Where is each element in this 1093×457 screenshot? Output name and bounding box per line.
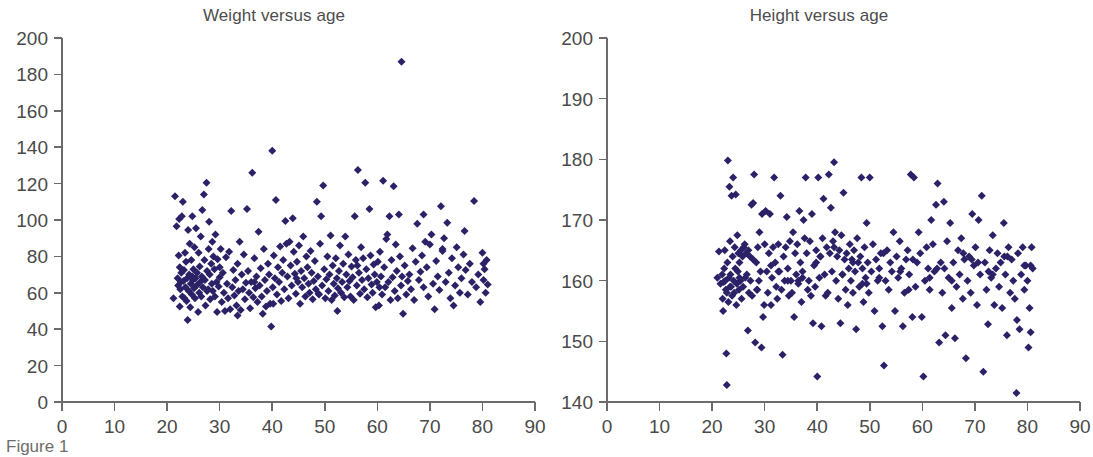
scatter-point bbox=[268, 147, 276, 155]
scatter-point bbox=[1011, 295, 1019, 303]
scatter-point bbox=[205, 245, 213, 253]
scatter-point bbox=[359, 254, 367, 262]
y-axis-tick-label: 180 bbox=[16, 64, 48, 85]
y-axis-tick-label: 80 bbox=[27, 246, 48, 267]
scatter-point bbox=[184, 226, 192, 234]
x-axis-tick-label: 10 bbox=[649, 416, 670, 437]
scatter-point bbox=[437, 202, 445, 210]
scatter-point bbox=[296, 300, 304, 308]
scatter-point bbox=[388, 256, 396, 264]
scatter-point bbox=[238, 271, 246, 279]
scatter-point bbox=[482, 289, 490, 297]
scatter-point bbox=[915, 228, 923, 236]
scatter-point bbox=[774, 268, 782, 276]
scatter-point bbox=[1019, 243, 1027, 251]
scatter-point bbox=[1020, 286, 1028, 294]
scatter-point bbox=[857, 174, 865, 182]
scatter-point bbox=[319, 181, 327, 189]
scatter-point bbox=[184, 316, 192, 324]
scatter-point bbox=[861, 243, 869, 251]
y-axis-tick-label: 100 bbox=[16, 210, 48, 231]
scatter-point bbox=[353, 282, 361, 290]
scatter-point bbox=[250, 254, 258, 262]
scatter-point bbox=[307, 247, 315, 255]
scatter-point bbox=[1017, 271, 1025, 279]
x-axis-tick-label: 70 bbox=[964, 416, 985, 437]
scatter-point bbox=[941, 331, 949, 339]
scatter-point bbox=[828, 268, 836, 276]
scatter-point bbox=[420, 211, 428, 219]
scatter-point bbox=[255, 228, 263, 236]
scatter-point bbox=[738, 295, 746, 303]
scatter-point bbox=[838, 271, 846, 279]
scatter-point bbox=[1028, 243, 1036, 251]
scatter-point bbox=[264, 260, 272, 268]
scatter-point bbox=[967, 289, 975, 297]
scatter-point bbox=[758, 343, 766, 351]
scatter-point bbox=[280, 285, 288, 293]
scatter-point bbox=[274, 263, 282, 271]
scatter-point bbox=[399, 310, 407, 318]
scatter-point bbox=[1027, 328, 1035, 336]
scatter-point bbox=[755, 277, 763, 285]
scatter-point bbox=[379, 177, 387, 185]
x-axis-tick-label: 0 bbox=[602, 416, 613, 437]
scatter-point bbox=[236, 238, 244, 246]
scatter-point bbox=[796, 258, 804, 266]
scatter-point bbox=[195, 249, 203, 257]
scatter-point bbox=[1026, 304, 1034, 312]
scatter-point bbox=[371, 271, 379, 279]
scatter-point bbox=[853, 234, 861, 242]
scatter-point bbox=[814, 174, 822, 182]
scatter-point bbox=[817, 322, 825, 330]
x-axis-tick-label: 0 bbox=[57, 416, 68, 437]
scatter-point bbox=[723, 381, 731, 389]
scatter-point bbox=[176, 302, 184, 310]
x-axis-tick-label: 30 bbox=[209, 416, 230, 437]
scatter-point bbox=[904, 246, 912, 254]
scatter-point bbox=[404, 277, 412, 285]
scatter-point bbox=[765, 249, 773, 257]
figure-caption: Figure 1 bbox=[6, 437, 68, 457]
scatter-point bbox=[982, 286, 990, 294]
y-axis-tick-label: 140 bbox=[561, 392, 593, 413]
scatter-point bbox=[298, 283, 306, 291]
scatter-point bbox=[905, 271, 913, 279]
y-axis-tick-label: 60 bbox=[27, 283, 48, 304]
scatter-point bbox=[811, 283, 819, 291]
scatter-point bbox=[474, 271, 482, 279]
scatter-point bbox=[1012, 389, 1020, 397]
scatter-point bbox=[289, 214, 297, 222]
scatter-point bbox=[940, 265, 948, 273]
scatter-point bbox=[715, 248, 723, 256]
scatter-point bbox=[816, 252, 824, 260]
scatter-point bbox=[964, 277, 972, 285]
scatter-point bbox=[956, 271, 964, 279]
scatter-point bbox=[938, 289, 946, 297]
scatter-point bbox=[952, 283, 960, 291]
scatter-point bbox=[333, 307, 341, 315]
scatter-point bbox=[466, 260, 474, 268]
scatter-point bbox=[844, 301, 852, 309]
scatter-point bbox=[272, 196, 280, 204]
scatter-point bbox=[795, 207, 803, 215]
scatter-point bbox=[867, 268, 875, 276]
scatter-point bbox=[335, 267, 343, 275]
scatter-point bbox=[721, 246, 729, 254]
scatter-point bbox=[863, 219, 871, 227]
scatter-point bbox=[313, 198, 321, 206]
scatter-point bbox=[790, 313, 798, 321]
scatter-point bbox=[303, 263, 311, 271]
scatter-point bbox=[858, 265, 866, 273]
scatter-point bbox=[836, 319, 844, 327]
x-axis-tick-label: 20 bbox=[702, 416, 723, 437]
scatter-point bbox=[367, 251, 375, 259]
scatter-point bbox=[208, 238, 216, 246]
scatter-point bbox=[724, 157, 732, 165]
scatter-point bbox=[779, 351, 787, 359]
scatter-point bbox=[478, 249, 486, 257]
scatter-point bbox=[332, 254, 340, 262]
scatter-point bbox=[998, 304, 1006, 312]
scatter-point bbox=[378, 291, 386, 299]
scatter-point bbox=[397, 282, 405, 290]
